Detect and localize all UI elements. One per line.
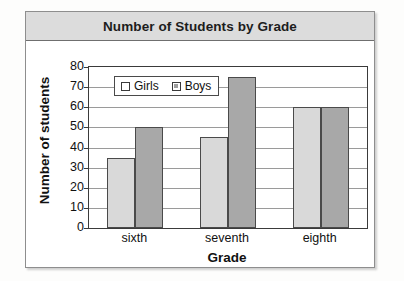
y-axis-tick-label: 50 — [70, 119, 84, 133]
y-axis-title: Number of students — [34, 48, 56, 233]
bar-seventh-boys — [228, 77, 256, 228]
bar-sixth-boys — [135, 127, 163, 228]
bar-sixth-girls — [107, 158, 135, 228]
x-axis-title: Grade — [88, 250, 366, 265]
chart-container: Number of Students by Grade Number of st… — [25, 11, 375, 268]
legend-item-boys: Boys — [172, 79, 212, 93]
chart-title-band: Number of Students by Grade — [26, 12, 374, 41]
y-axis-tick-label: 30 — [70, 160, 84, 174]
y-axis-tick-label: 80 — [70, 59, 84, 73]
bar-seventh-girls — [200, 137, 228, 228]
plot-area: Girls Boys — [88, 66, 368, 229]
x-axis-tick-label: eighth — [303, 231, 337, 245]
legend-item-girls: Girls — [121, 79, 159, 93]
chart-legend: Girls Boys — [114, 76, 219, 96]
y-axis-tick-labels: 80706050403020100 — [58, 55, 84, 235]
bar-eighth-girls — [293, 107, 321, 228]
legend-swatch-girls-icon — [121, 82, 130, 91]
bar-eighth-boys — [321, 107, 349, 228]
legend-label-boys: Boys — [185, 79, 212, 93]
x-axis-tick-label: seventh — [205, 231, 249, 245]
x-axis-tick-label: sixth — [121, 231, 147, 245]
y-axis-tick-label: 0 — [77, 220, 84, 234]
y-axis-tickmark — [84, 228, 89, 229]
legend-label-girls: Girls — [134, 79, 159, 93]
page-title: Number of Students by Grade — [103, 19, 297, 34]
x-axis-tick-labels: sixthseventheighth — [88, 231, 366, 249]
y-axis-tick-label: 60 — [70, 99, 84, 113]
y-axis-tick-label: 10 — [70, 200, 84, 214]
y-axis-tick-label: 40 — [70, 140, 84, 154]
y-axis-title-label: Number of students — [38, 77, 53, 205]
legend-swatch-boys-icon — [172, 82, 181, 91]
y-axis-tick-label: 20 — [70, 180, 84, 194]
chart-page: Number of Students by Grade Number of st… — [0, 0, 404, 281]
y-axis-tick-label: 70 — [70, 79, 84, 93]
